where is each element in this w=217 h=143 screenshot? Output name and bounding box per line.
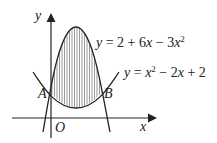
origin-label: O	[55, 120, 65, 135]
equation-lower: y = x2 − 2x + 2	[122, 64, 206, 80]
point-b-label: B	[104, 86, 113, 101]
equation-upper: y = 2 + 6x − 3x2	[94, 34, 185, 50]
diagram-canvas: y x O A B y = 2 + 6x − 3x2 y = x2 − 2x +…	[0, 0, 217, 143]
x-axis-label: x	[139, 119, 147, 134]
point-a-label: A	[37, 86, 47, 101]
y-axis-arrow-icon	[47, 13, 56, 22]
y-axis-label: y	[33, 8, 42, 23]
x-axis-arrow-icon	[148, 114, 157, 123]
